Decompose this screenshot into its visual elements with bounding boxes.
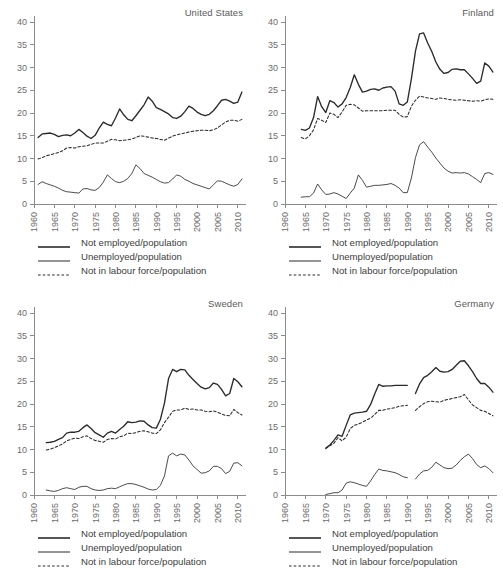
x-tick-label: 2010 bbox=[233, 503, 243, 523]
legend-item[interactable]: Not in labour force/population bbox=[251, 264, 502, 278]
x-tick-label: 1985 bbox=[382, 212, 392, 232]
x-tick-label: 1995 bbox=[172, 503, 182, 523]
legend-key-unemployed bbox=[34, 252, 74, 262]
legend-item[interactable]: Not employed/population bbox=[251, 236, 502, 250]
x-tick-label: 1985 bbox=[382, 503, 392, 523]
legend-item[interactable]: Unemployed/population bbox=[0, 250, 251, 264]
y-tick-label: 40 bbox=[268, 308, 278, 318]
series-line-segment bbox=[326, 384, 408, 448]
y-tick-label: 40 bbox=[17, 308, 27, 318]
legend-item[interactable]: Unemployed/population bbox=[251, 541, 502, 555]
legend-united-states: Not employed/populationUnemployed/popula… bbox=[0, 236, 251, 278]
legend-item[interactable]: Unemployed/population bbox=[0, 541, 251, 555]
y-tick-label: 15 bbox=[17, 422, 27, 432]
y-tick-label: 35 bbox=[17, 331, 27, 341]
x-tick-label: 2005 bbox=[464, 212, 474, 232]
y-tick-label: 40 bbox=[268, 17, 278, 27]
x-tick-label: 1970 bbox=[70, 212, 80, 232]
x-tick-label: 1960 bbox=[280, 212, 290, 232]
y-tick-label: 0 bbox=[22, 490, 27, 500]
legend-label: Unemployed/population bbox=[81, 252, 182, 262]
y-tick-label: 35 bbox=[268, 40, 278, 50]
x-tick-label: 1970 bbox=[70, 503, 80, 523]
legend-item[interactable]: Not in labour force/population bbox=[0, 555, 251, 569]
y-tick-label: 0 bbox=[273, 199, 278, 209]
x-tick-label: 1990 bbox=[403, 503, 413, 523]
y-tick-label: 25 bbox=[268, 376, 278, 386]
legend-key-not-in-labour-force bbox=[34, 266, 74, 276]
x-tick-label: 1965 bbox=[50, 503, 60, 523]
series-line-segment bbox=[326, 469, 408, 494]
x-tick-label: 1995 bbox=[423, 212, 433, 232]
legend-item[interactable]: Unemployed/population bbox=[251, 250, 502, 264]
series-line bbox=[38, 92, 242, 138]
y-tick-label: 10 bbox=[268, 445, 278, 455]
y-tick-label: 0 bbox=[22, 199, 27, 209]
y-tick-label: 25 bbox=[268, 85, 278, 95]
x-tick-label: 1990 bbox=[152, 503, 162, 523]
x-tick-label: 1975 bbox=[91, 503, 101, 523]
x-tick-label: 1995 bbox=[172, 212, 182, 232]
legend-item[interactable]: Not in labour force/population bbox=[251, 555, 502, 569]
x-tick-label: 2005 bbox=[464, 503, 474, 523]
legend-label: Unemployed/population bbox=[81, 543, 182, 553]
legend-item[interactable]: Not in labour force/population bbox=[0, 264, 251, 278]
series-line bbox=[301, 96, 493, 139]
x-tick-label: 1985 bbox=[131, 212, 141, 232]
x-tick-label: 2010 bbox=[484, 503, 494, 523]
y-tick-label: 20 bbox=[268, 108, 278, 118]
y-tick-label: 25 bbox=[17, 85, 27, 95]
y-tick-label: 5 bbox=[273, 176, 278, 186]
x-tick-label: 2000 bbox=[443, 503, 453, 523]
x-tick-label: 1960 bbox=[29, 212, 39, 232]
series-line-segment bbox=[415, 454, 492, 479]
y-tick-label: 10 bbox=[17, 445, 27, 455]
y-tick-label: 30 bbox=[17, 63, 27, 73]
panel-germany: Germany 05101520253035401960196519701975… bbox=[251, 291, 502, 581]
x-tick-label: 2000 bbox=[192, 212, 202, 232]
x-tick-label: 1970 bbox=[321, 212, 331, 232]
legend-label: Not in labour force/population bbox=[81, 266, 206, 276]
series-line bbox=[301, 33, 493, 130]
legend-label: Unemployed/population bbox=[332, 252, 433, 262]
legend-label: Not in labour force/population bbox=[332, 557, 457, 567]
x-tick-label: 2005 bbox=[213, 503, 223, 523]
y-tick-label: 25 bbox=[17, 376, 27, 386]
y-tick-label: 5 bbox=[273, 467, 278, 477]
x-tick-label: 2000 bbox=[443, 212, 453, 232]
x-tick-label: 1960 bbox=[29, 503, 39, 523]
legend-key-not-employed bbox=[34, 529, 74, 539]
legend-key-not-employed bbox=[285, 529, 325, 539]
legend-germany: Not employed/populationUnemployed/popula… bbox=[251, 527, 502, 569]
x-tick-label: 2000 bbox=[192, 503, 202, 523]
series-line bbox=[46, 453, 242, 491]
legend-key-unemployed bbox=[285, 543, 325, 553]
x-tick-label: 1980 bbox=[111, 503, 121, 523]
legend-key-not-employed bbox=[285, 238, 325, 248]
x-tick-label: 1985 bbox=[131, 503, 141, 523]
legend-label: Not employed/population bbox=[332, 529, 438, 539]
legend-finland: Not employed/populationUnemployed/popula… bbox=[251, 236, 502, 278]
panel-sweden: Sweden 051015202530354019601965197019751… bbox=[0, 291, 251, 581]
x-tick-label: 1965 bbox=[301, 212, 311, 232]
series-line-segment bbox=[415, 361, 492, 394]
x-tick-label: 1980 bbox=[111, 212, 121, 232]
y-tick-label: 15 bbox=[268, 422, 278, 432]
y-tick-label: 40 bbox=[17, 17, 27, 27]
series-line bbox=[38, 165, 242, 193]
legend-sweden: Not employed/populationUnemployed/popula… bbox=[0, 527, 251, 569]
x-tick-label: 2010 bbox=[484, 212, 494, 232]
legend-key-unemployed bbox=[285, 252, 325, 262]
y-tick-label: 20 bbox=[268, 399, 278, 409]
y-tick-label: 35 bbox=[268, 331, 278, 341]
legend-key-not-in-labour-force bbox=[34, 557, 74, 567]
x-tick-label: 1965 bbox=[301, 503, 311, 523]
x-tick-label: 1975 bbox=[91, 212, 101, 232]
legend-item[interactable]: Not employed/population bbox=[0, 527, 251, 541]
legend-item[interactable]: Not employed/population bbox=[0, 236, 251, 250]
y-tick-label: 15 bbox=[17, 131, 27, 141]
x-tick-label: 1990 bbox=[403, 212, 413, 232]
legend-item[interactable]: Not employed/population bbox=[251, 527, 502, 541]
legend-key-not-in-labour-force bbox=[285, 266, 325, 276]
y-tick-label: 15 bbox=[268, 131, 278, 141]
